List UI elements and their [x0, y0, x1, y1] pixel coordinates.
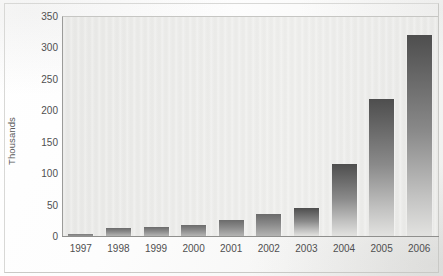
y-tick-label: 150: [12, 136, 58, 147]
chart-page: Thousands 050100150200250300350 19971998…: [0, 0, 443, 276]
x-tick-label: 2003: [295, 243, 317, 254]
bar: [106, 228, 131, 236]
x-tick-label: 2005: [370, 243, 392, 254]
bar: [181, 225, 206, 236]
x-tick-label: 2001: [220, 243, 242, 254]
bar: [407, 35, 432, 236]
bar-chart: Thousands 050100150200250300350 19971998…: [0, 0, 443, 276]
bar: [68, 234, 93, 236]
y-tick-label: 100: [12, 168, 58, 179]
bar: [256, 214, 281, 236]
x-axis-line: [62, 236, 439, 237]
y-tick-label: 300: [12, 42, 58, 53]
x-tick-label: 1999: [145, 243, 167, 254]
x-tick-label: 2000: [182, 243, 204, 254]
y-tick-label: 350: [12, 11, 58, 22]
bar: [294, 208, 319, 236]
y-axis-tick-labels: 050100150200250300350: [8, 0, 58, 276]
y-tick-label: 50: [12, 199, 58, 210]
x-tick-label: 1998: [107, 243, 129, 254]
x-tick-label: 2004: [333, 243, 355, 254]
x-tick-label: 2006: [408, 243, 430, 254]
x-tick-label: 2002: [258, 243, 280, 254]
bar: [369, 99, 394, 236]
bar: [219, 220, 244, 236]
bar: [332, 164, 357, 236]
y-tick-label: 250: [12, 73, 58, 84]
bar: [144, 227, 169, 236]
y-tick-label: 200: [12, 105, 58, 116]
y-tick-label: 0: [12, 231, 58, 242]
x-tick-label: 1997: [70, 243, 92, 254]
